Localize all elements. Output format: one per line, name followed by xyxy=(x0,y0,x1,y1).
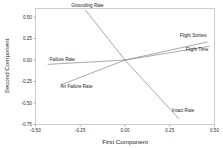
pca-loading-plot: -0.50-0.250.000.250.50 0.500.250.00-0.25… xyxy=(0,0,223,148)
y-tick-label: 0.50 xyxy=(23,15,32,20)
y-tick-label: 0.25 xyxy=(23,36,32,41)
variable-label: Intact Rate xyxy=(172,108,195,113)
x-tick-label: -0.25 xyxy=(75,128,86,133)
variable-label: Flight Sorties xyxy=(180,33,208,38)
y-tick-label: 0.00 xyxy=(23,58,32,63)
chart-canvas: -0.50-0.250.000.250.50 0.500.250.00-0.25… xyxy=(0,0,223,148)
y-tick-label: -0.50 xyxy=(21,101,32,106)
variable-label: Failure Rate xyxy=(50,57,75,62)
y-tick-label: -0.75 xyxy=(21,122,32,127)
y-axis-title: Second Component xyxy=(3,38,10,93)
x-tick-label: 0.25 xyxy=(165,128,174,133)
x-axis-title: First Component xyxy=(102,138,148,145)
x-tick-label: -0.50 xyxy=(30,128,41,133)
variable-label: Air Failure Rate xyxy=(61,84,93,89)
y-tick-label: -0.25 xyxy=(21,79,32,84)
x-tick-label: 0.50 xyxy=(210,128,219,133)
variable-label: Flight Time xyxy=(186,47,209,52)
x-tick-label: 0.00 xyxy=(121,128,130,133)
variable-label: Grounding Rate xyxy=(71,3,104,8)
